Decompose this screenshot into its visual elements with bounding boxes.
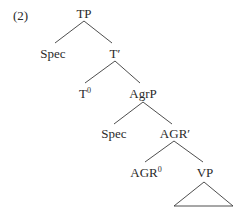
node-spec-agrp: Spec <box>101 127 126 140</box>
example-number: (2) <box>13 9 28 22</box>
node-agrp-label: AgrP <box>129 86 156 101</box>
node-tp-label: TP <box>76 6 91 21</box>
node-vp: VP <box>197 166 214 179</box>
branch-tbar-agrp <box>115 61 140 83</box>
tree-branches <box>0 0 248 220</box>
branch-agrbar-vp <box>174 141 203 162</box>
node-agr-head: AGR0 <box>130 166 161 179</box>
node-t-bar-label: T′ <box>110 46 121 61</box>
node-vp-label: VP <box>197 165 214 180</box>
node-spec-agrp-label: Spec <box>101 126 126 141</box>
node-tp: TP <box>76 7 91 20</box>
node-spec-tp: Spec <box>40 47 65 60</box>
node-t-head-superscript: 0 <box>87 86 91 95</box>
branch-agrbar-agrhead <box>145 141 174 162</box>
node-agr-bar-label: AGR′ <box>160 126 190 141</box>
node-agr-head-label: AGR <box>130 165 157 180</box>
branch-tp-spec <box>55 21 84 43</box>
node-spec-tp-label: Spec <box>40 46 65 61</box>
node-t-head: T0 <box>79 87 91 100</box>
branch-tp-tbar <box>84 21 112 43</box>
node-t-head-label: T <box>79 86 87 101</box>
vp-triangle <box>174 182 233 206</box>
node-agrp: AgrP <box>129 87 156 100</box>
syntax-tree-diagram: (2) TP Spec T′ T0 AgrP Spec AGR′ AGR0 VP <box>0 0 248 220</box>
node-agr-head-superscript: 0 <box>158 165 162 174</box>
branch-agrp-spec <box>114 102 143 124</box>
node-t-bar: T′ <box>110 47 121 60</box>
node-agr-bar: AGR′ <box>160 127 190 140</box>
branch-tbar-thead <box>85 61 115 83</box>
branch-agrp-agrbar <box>143 102 172 124</box>
